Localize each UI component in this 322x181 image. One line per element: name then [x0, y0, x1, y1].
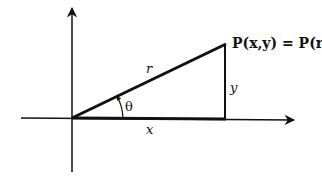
label-x: x — [146, 123, 153, 136]
label-r: r — [146, 62, 152, 75]
label-point-p: P(x,y) = P(r,θ) — [232, 36, 322, 50]
angle-arc-icon — [117, 96, 123, 118]
label-y: y — [230, 81, 237, 94]
x-leg — [72, 118, 226, 119]
label-theta: θ — [125, 100, 133, 113]
polar-coordinates-diagram: r θ x y P(x,y) = P(r,θ) — [0, 0, 322, 181]
diagram-canvas — [0, 0, 322, 181]
hypotenuse-r — [72, 44, 226, 118]
